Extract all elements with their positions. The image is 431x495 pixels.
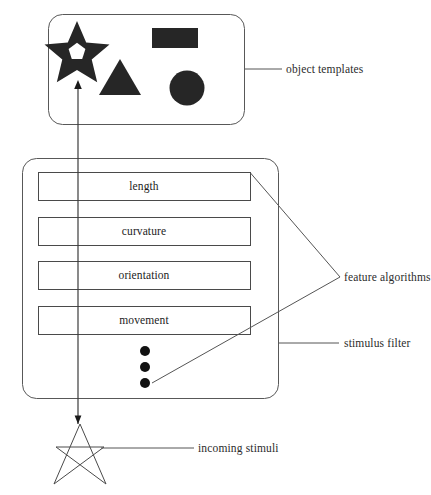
feature-label-length: length <box>38 180 250 192</box>
feature-label-orientation: orientation <box>38 269 250 281</box>
feature-label-movement: movement <box>38 314 250 326</box>
label-object-templates: object templates <box>286 63 363 75</box>
leader-line-feature-algorithms-top <box>251 173 341 277</box>
leader-line-feature-algorithms-bottom <box>152 277 340 383</box>
label-stimulus-filter: stimulus filter <box>344 337 410 349</box>
ellipsis-dot <box>140 378 150 388</box>
triangle-shape <box>99 59 141 95</box>
feature-label-curvature: curvature <box>38 225 250 237</box>
label-incoming-stimuli: incoming stimuli <box>198 442 279 454</box>
incoming-stimuli-star <box>54 424 106 484</box>
label-feature-algorithms: feature algorithms <box>344 271 431 283</box>
star-shape <box>45 21 110 82</box>
upward-flow-arrow <box>74 80 82 424</box>
ellipsis-dot <box>140 362 150 372</box>
rectangle-shape <box>152 28 198 48</box>
circle-shape <box>170 71 205 106</box>
ellipsis-dot <box>140 346 150 356</box>
